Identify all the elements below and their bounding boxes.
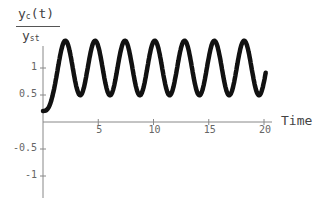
response-curve	[43, 41, 266, 111]
y-tick-label: -0.5	[13, 142, 37, 153]
x-tick-label: 20	[259, 124, 271, 135]
fraction-bar	[16, 26, 60, 27]
x-tick-label: 5	[96, 124, 102, 135]
x-tick-label: 15	[204, 124, 216, 135]
plot-area	[0, 0, 336, 203]
y-tick-label: -1	[25, 169, 37, 180]
chart: yc(t) yst Time 510152010.5-0.5-1	[0, 0, 336, 203]
x-axis-label: Time	[281, 113, 312, 128]
y-axis-label-numerator: yc(t)	[18, 6, 54, 21]
y-tick-label: 1	[31, 61, 37, 72]
y-axis-label-denominator: yst	[22, 28, 39, 43]
x-tick-label: 10	[149, 124, 161, 135]
y-tick-label: 0.5	[19, 88, 37, 99]
